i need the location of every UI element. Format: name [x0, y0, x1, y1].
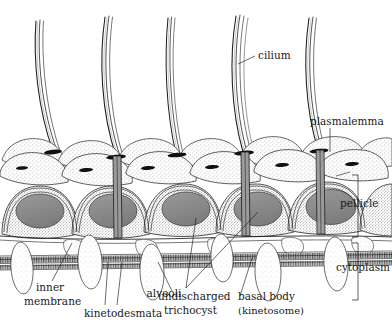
label-trichocyst-line2: trichocyst: [164, 304, 218, 316]
label-pellicle: pellicle: [340, 197, 378, 209]
pellicle-illustration: cilium plasmalemma pellicle cytoplasm al…: [0, 0, 392, 330]
label-inner-membrane-line1: inner: [36, 281, 65, 293]
label-cytoplasm: cytoplasm: [336, 261, 390, 273]
diagram-canvas: cilium plasmalemma pellicle cytoplasm al…: [0, 0, 392, 330]
label-kinetodesmata: kinetodesmata: [84, 307, 162, 319]
label-basal-body-line2: (kinetosome): [238, 305, 304, 316]
label-basal-body-line1: basal body: [238, 290, 295, 302]
label-cilium: cilium: [258, 49, 291, 61]
label-plasmalemma: plasmalemma: [310, 115, 384, 127]
label-inner-membrane-line2: membrane: [24, 295, 81, 307]
label-trichocyst-line1: undischarged: [158, 290, 231, 302]
